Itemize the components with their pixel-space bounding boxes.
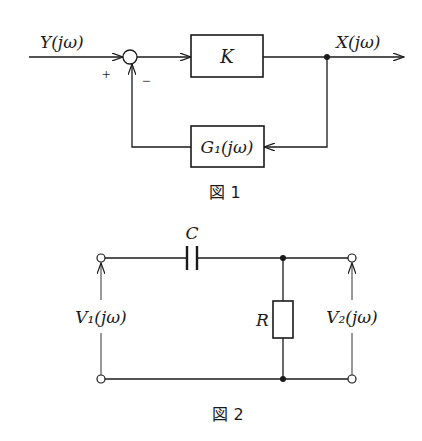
figure-2-caption: 図 2 [212,405,243,424]
input-voltage-label: V₁(jω) [75,307,127,327]
output-voltage-label: V₂(jω) [326,307,378,327]
forward-gain-label: K [219,46,235,67]
output-terminal-bottom [348,375,356,383]
figure-2-circuit: C R V₁(jω) V₂(jω) 図 2 [75,223,378,424]
diagram-canvas: Y(jω) + − K X(jω) G₁(jω) 図 1 C [0,0,422,441]
output-label: X(jω) [334,32,381,52]
plus-sign: + [102,66,110,82]
feedback-path-right [264,57,327,147]
input-terminal-bottom [97,375,105,383]
capacitor-label: C [185,223,198,243]
resistor [273,301,293,338]
summing-junction [123,50,137,64]
output-terminal-top [348,254,356,262]
figure-1-caption: 図 1 [209,183,240,202]
feedback-block-label: G₁(jω) [201,137,254,157]
figure-1-block-diagram: Y(jω) + − K X(jω) G₁(jω) 図 1 [29,32,404,202]
minus-sign: − [142,73,150,89]
input-label: Y(jω) [40,32,84,52]
input-terminal-top [97,254,105,262]
feedback-path-left [132,64,191,147]
resistor-label: R [255,310,269,330]
